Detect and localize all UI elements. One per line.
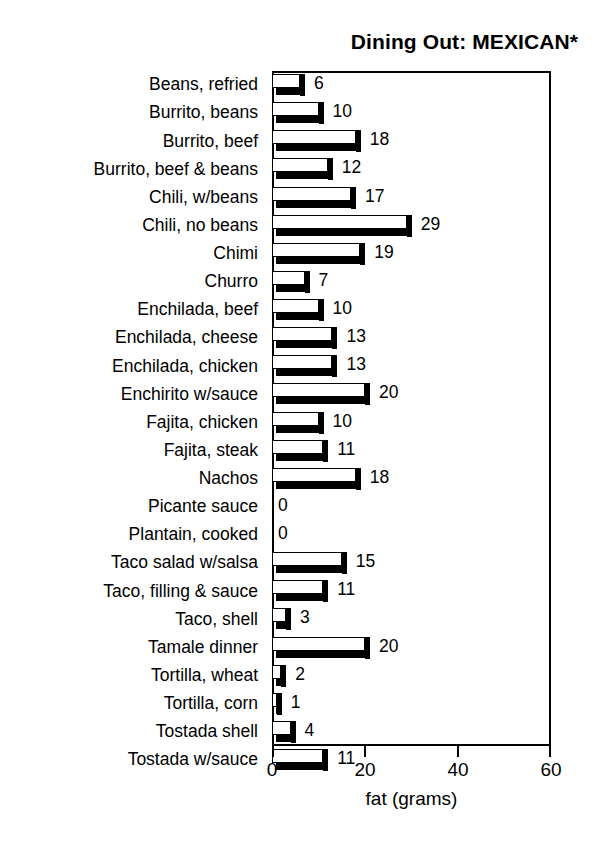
bar-value-label: 13 [346, 325, 365, 347]
bar [272, 468, 356, 490]
bar-row: 0 [272, 493, 551, 521]
bar-value-label: 18 [370, 128, 389, 150]
bar-end-cap [277, 693, 282, 715]
bar-face [272, 749, 323, 763]
bar-end-cap [323, 749, 328, 771]
bar-end-cap [407, 215, 412, 237]
bar-series: 6101812172919710131320101118001511320214… [272, 71, 551, 746]
bar-end-cap [351, 187, 356, 209]
bar-end-cap [300, 74, 305, 96]
bar-face [272, 102, 319, 116]
bar [272, 552, 342, 574]
bar [272, 299, 319, 321]
bar-row: 10 [272, 296, 551, 324]
bar-end-cap [360, 243, 365, 265]
category-label-row: Enchirito w/sauce [0, 380, 266, 408]
category-label-row: Enchilada, cheese [0, 324, 266, 352]
bar-face [272, 187, 351, 201]
bar-face [272, 355, 332, 369]
category-label-row: Taco, filling & sauce [0, 577, 266, 605]
bar-face [272, 130, 356, 144]
bar-end-cap [305, 271, 310, 293]
bar [272, 749, 323, 771]
category-label-row: Chili, no beans [0, 212, 266, 240]
bar [272, 608, 286, 630]
bar-row: 1 [272, 690, 551, 718]
bar-face [272, 580, 323, 594]
bar-end-cap [291, 721, 296, 743]
bar-value-label: 4 [305, 719, 315, 741]
bar [272, 187, 351, 209]
x-axis-tick [457, 746, 459, 757]
category-label-row: Fajita, steak [0, 437, 266, 465]
bar-face [272, 608, 286, 622]
bar-value-label: 11 [337, 578, 355, 600]
bar-row: 17 [272, 184, 551, 212]
bar-end-cap [328, 158, 333, 180]
bar [272, 637, 365, 659]
bar-end-cap [342, 552, 347, 574]
bar-value-label: 12 [342, 156, 361, 178]
category-label: Chili, no beans [142, 217, 258, 235]
bar-end-cap [332, 327, 337, 349]
bar-face [272, 158, 328, 172]
category-label-row: Tamale dinner [0, 634, 266, 662]
x-axis-tick-label: 60 [540, 759, 561, 781]
category-label: Burrito, beans [149, 104, 258, 122]
bar-end-cap [332, 355, 337, 377]
bar-row: 18 [272, 465, 551, 493]
bar-value-label: 6 [314, 72, 324, 94]
category-label: Tostada shell [156, 723, 258, 741]
bar [272, 243, 360, 265]
bar [272, 693, 277, 715]
bar-value-label: 20 [379, 635, 398, 657]
bar-face [272, 299, 319, 313]
x-axis-tick [549, 746, 551, 757]
category-label-row: Plantain, cooked [0, 521, 266, 549]
bar [272, 130, 356, 152]
bar-value-label: 0 [278, 494, 288, 516]
category-label-row: Enchilada, chicken [0, 352, 266, 380]
bar-end-cap [281, 665, 286, 687]
bar-face [272, 243, 360, 257]
bar-end-cap [319, 102, 324, 124]
bar [272, 721, 291, 743]
category-label-row: Burrito, beef & beans [0, 155, 266, 183]
bar-row: 3 [272, 605, 551, 633]
category-label: Tostada w/sauce [128, 751, 258, 769]
bar [272, 665, 281, 687]
bar-face [272, 271, 305, 285]
page-title: Dining Out: MEXICAN* [0, 30, 578, 54]
category-label-row: Picante sauce [0, 493, 266, 521]
bar [272, 158, 328, 180]
bar [272, 355, 332, 377]
bar-row: 20 [272, 380, 551, 408]
category-label: Chimi [213, 245, 258, 263]
x-axis-tick-label: 40 [447, 759, 468, 781]
bar-row: 6 [272, 71, 551, 99]
bar-end-cap [365, 637, 370, 659]
x-axis-tick [364, 746, 366, 757]
category-label: Nachos [199, 470, 258, 488]
x-axis-tick-label: 20 [354, 759, 375, 781]
category-label: Tortilla, corn [164, 695, 258, 713]
category-label: Taco salad w/salsa [111, 554, 258, 572]
bar-value-label: 1 [291, 691, 301, 713]
bar-value-label: 2 [295, 663, 305, 685]
bar-end-cap [286, 608, 291, 630]
bar [272, 102, 319, 124]
bar-row: 11 [272, 437, 551, 465]
category-axis-labels: Beans, refriedBurrito, beansBurrito, bee… [0, 71, 266, 746]
bar [272, 215, 407, 237]
category-label: Beans, refried [149, 76, 258, 94]
x-axis: 0204060 [272, 746, 551, 747]
category-label: Taco, filling & sauce [103, 583, 258, 601]
bar-face [272, 468, 356, 482]
bar [272, 580, 323, 602]
category-label-row: Fajita, chicken [0, 409, 266, 437]
category-label-row: Tostada w/sauce [0, 746, 266, 774]
bar-face [272, 74, 300, 88]
bar-row: 2 [272, 662, 551, 690]
bar-face [272, 552, 342, 566]
category-label: Enchilada, cheese [115, 329, 258, 347]
